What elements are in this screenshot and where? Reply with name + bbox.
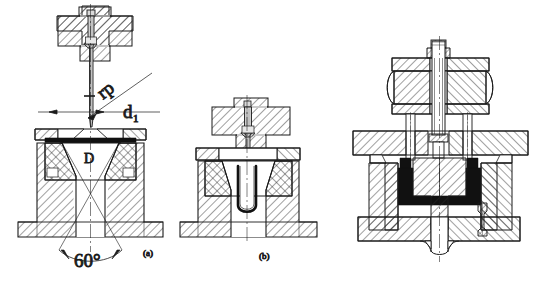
central-punch-rod-c <box>429 41 448 158</box>
label-cone-angle: 60° <box>74 250 101 271</box>
engineering-drawing-svg: rp d 1 D 60° (a) <box>0 0 540 287</box>
technical-drawing-canvas: rp d 1 D 60° (a) <box>0 0 540 287</box>
leader-rp-a <box>84 73 152 120</box>
panel-b: (b) <box>180 95 317 261</box>
blank-holder-b <box>196 148 300 160</box>
caption-a: (a) <box>143 248 153 258</box>
lower-bolster-c <box>358 217 520 255</box>
label-d: d <box>123 101 133 122</box>
panel-c <box>353 36 528 262</box>
label-d-subscript: 1 <box>133 112 139 124</box>
caption-b: (b) <box>259 251 270 261</box>
panel-a: rp d 1 D 60° (a) <box>18 4 163 271</box>
label-D: D <box>84 151 94 166</box>
